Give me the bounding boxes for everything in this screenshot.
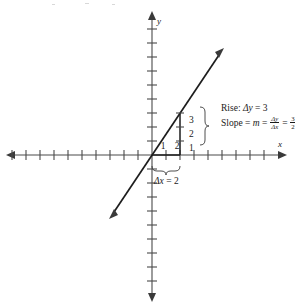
- x-axis: x: [6, 139, 287, 160]
- slope-result-numerator: 3: [290, 115, 295, 123]
- rise-curly-brace: [200, 107, 209, 145]
- slope-line-upper-arrowhead: [215, 48, 224, 58]
- run-curly-brace: [152, 166, 180, 175]
- y-axis-label: y: [156, 16, 161, 26]
- x-axis-left-arrowhead: [6, 151, 15, 159]
- plotted-line: [109, 48, 224, 219]
- slope-variable-m: m: [253, 118, 260, 128]
- y-axis-down-arrowhead: [148, 293, 156, 302]
- x-axis-right-arrowhead: [278, 151, 287, 159]
- slope-result-denominator: 2: [290, 123, 295, 130]
- rise-label-text: Rise:: [221, 103, 243, 113]
- y-tick-label-2: 2: [189, 129, 194, 139]
- scan-artifact: [112, 4, 115, 5]
- slope-fraction-result: 32: [290, 115, 295, 131]
- y-axis-up-arrowhead: [148, 11, 156, 20]
- slope-equals-2: =: [280, 118, 290, 128]
- slope-fraction-delta: ΔyΔx: [270, 115, 279, 131]
- x-tick-label-1: 1: [161, 141, 166, 151]
- slope-equals-1: =: [260, 118, 270, 128]
- rise-value-text: = 3: [253, 103, 268, 113]
- coordinate-graph-figure: x: [0, 0, 295, 306]
- run-annotation: Δx = 2: [154, 176, 179, 186]
- scan-artifact: [52, 4, 55, 5]
- y-tick-label-1: 1: [189, 143, 194, 153]
- slope-frac-numerator: Δy: [270, 115, 279, 123]
- run-delta-x: Δx: [154, 176, 164, 186]
- rise-annotation: Rise: Δy = 3: [221, 103, 268, 115]
- slope-line-segment: [114, 55, 219, 212]
- x-axis-label: x: [277, 139, 282, 149]
- slope-annotation: Slope = m = ΔyΔx = 32: [221, 115, 295, 131]
- slope-prefix-text: Slope =: [221, 118, 253, 128]
- rise-delta-y: Δy: [243, 103, 253, 113]
- scan-artifact: [85, 3, 89, 4]
- run-value-text: = 2: [164, 176, 179, 186]
- x-tick-label-2: 2: [175, 141, 180, 151]
- slope-frac-denominator: Δx: [270, 123, 279, 130]
- y-tick-label-3: 3: [189, 115, 194, 125]
- slope-line-lower-arrowhead: [109, 209, 118, 219]
- y-axis: y: [147, 11, 161, 302]
